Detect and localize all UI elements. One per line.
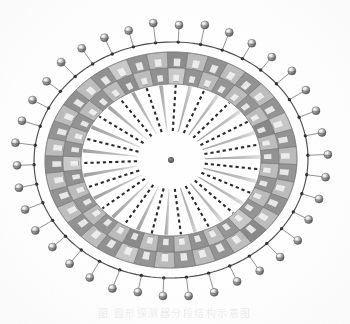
sphere-marker: [18, 117, 26, 125]
center-marker-group: [168, 157, 174, 163]
sphere-body: [31, 226, 39, 234]
sphere-highlight: [202, 22, 205, 24]
sphere-body: [248, 39, 256, 47]
cell-tick-shadow: [179, 238, 184, 239]
cell-tick-mark: [173, 75, 179, 82]
sphere-body: [268, 53, 276, 61]
sphere-highlight: [33, 228, 36, 230]
sphere-marker: [302, 86, 310, 94]
sphere-body: [201, 21, 209, 29]
figure-caption-text: 图 圆形探测器分段结构示意图: [98, 308, 252, 320]
sphere-highlight: [277, 255, 280, 257]
sphere-highlight: [176, 23, 179, 25]
sphere-highlight: [306, 217, 309, 219]
sphere-highlight: [79, 46, 82, 48]
sphere-body: [233, 277, 241, 285]
sphere-body: [276, 253, 284, 261]
sphere-body: [305, 215, 313, 223]
sphere-marker: [149, 19, 157, 27]
sphere-highlight: [186, 294, 189, 296]
cell-tick-mark: [71, 161, 79, 166]
cell-tick-mark: [280, 153, 290, 159]
sphere-body: [29, 96, 37, 104]
cell-tick-mark: [180, 252, 187, 261]
sphere-body: [324, 151, 332, 159]
cell-tick-mark: [154, 59, 161, 68]
sphere-highlight: [160, 293, 163, 295]
sphere-body: [302, 86, 310, 94]
sphere-highlight: [289, 68, 292, 70]
sphere-highlight: [67, 261, 70, 263]
circular-detector-figure: [0, 0, 350, 324]
sphere-marker: [248, 39, 256, 47]
sphere-highlight: [319, 130, 322, 132]
sphere-marker: [268, 53, 276, 61]
sphere-body: [256, 267, 264, 275]
sphere-marker: [288, 67, 296, 75]
sphere-marker: [233, 277, 241, 285]
sphere-body: [225, 28, 233, 36]
sphere-marker: [324, 151, 332, 159]
cell-tick-mark: [163, 238, 169, 245]
sphere-highlight: [257, 268, 260, 270]
sphere-highlight: [323, 175, 326, 177]
sphere-marker: [318, 128, 326, 136]
sphere-highlight: [50, 245, 53, 247]
sphere-highlight: [44, 79, 47, 81]
sphere-body: [294, 236, 302, 244]
cell-tick-mark: [179, 238, 185, 245]
sphere-highlight: [102, 35, 105, 37]
cell-tick-mark: [157, 75, 163, 82]
sphere-marker: [31, 226, 39, 234]
sphere-marker: [201, 21, 209, 29]
sphere-body: [43, 77, 51, 85]
sphere-body: [312, 107, 320, 115]
sphere-body: [149, 19, 157, 27]
sphere-body: [318, 128, 326, 136]
sphere-highlight: [316, 197, 319, 199]
sphere-highlight: [135, 290, 138, 292]
sphere-marker: [21, 206, 29, 214]
sphere-body: [100, 34, 108, 42]
sphere-body: [15, 184, 23, 192]
sphere-body: [57, 58, 65, 66]
sphere-highlight: [234, 279, 237, 281]
sphere-highlight: [110, 286, 113, 288]
cell-tick-mark: [174, 58, 181, 66]
sphere-marker: [322, 173, 330, 181]
sphere-body: [210, 288, 218, 296]
sphere-marker: [125, 27, 133, 35]
sphere-body: [288, 67, 296, 75]
sphere-marker: [66, 260, 74, 268]
sphere-marker: [78, 44, 86, 52]
sphere-marker: [48, 243, 56, 251]
sphere-marker: [86, 274, 94, 282]
sphere-body: [322, 173, 330, 181]
sphere-marker: [29, 96, 37, 104]
sphere-marker: [100, 34, 108, 42]
sphere-highlight: [87, 275, 90, 277]
sphere-marker: [13, 161, 21, 169]
sphere-highlight: [313, 108, 316, 110]
sphere-highlight: [151, 21, 154, 23]
sphere-body: [18, 117, 26, 125]
figure-root: 图 圆形探测器分段结构示意图: [0, 0, 350, 324]
cell-tick-mark: [161, 253, 168, 261]
sphere-body: [11, 139, 19, 147]
sphere-highlight: [58, 60, 61, 62]
sphere-body: [13, 161, 21, 169]
sphere-body: [108, 285, 116, 293]
sphere-marker: [256, 267, 264, 275]
sphere-body: [185, 292, 193, 300]
sphere-highlight: [249, 41, 252, 43]
sphere-marker: [276, 253, 284, 261]
sphere-body: [125, 27, 133, 35]
sphere-highlight: [211, 290, 214, 292]
sphere-body: [66, 260, 74, 268]
sphere-marker: [159, 292, 167, 300]
sphere-marker: [225, 28, 233, 36]
sphere-marker: [312, 107, 320, 115]
sphere-marker: [15, 184, 23, 192]
sphere-marker: [210, 288, 218, 296]
sphere-highlight: [227, 30, 230, 32]
